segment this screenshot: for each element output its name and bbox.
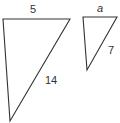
similar-triangles-diagram: 5 14 a 7 [0, 0, 120, 123]
small-triangle: a 7 [83, 2, 117, 70]
large-hypotenuse-label: 14 [45, 74, 57, 86]
large-triangle: 5 14 [3, 3, 70, 121]
small-hypotenuse-label: 7 [108, 44, 114, 56]
large-top-side-label: 5 [30, 3, 36, 15]
large-triangle-shape [3, 19, 70, 121]
small-top-side-label: a [97, 2, 103, 14]
